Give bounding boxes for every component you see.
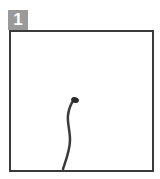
sprout-drawing-icon — [0, 0, 160, 179]
